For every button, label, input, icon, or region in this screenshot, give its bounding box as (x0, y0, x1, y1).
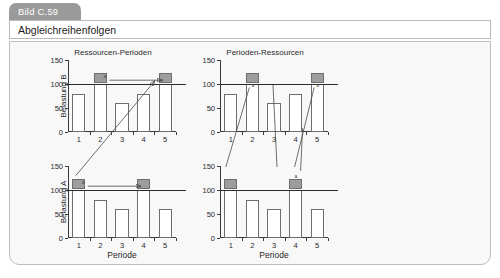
figure-tab: Bild C.59 (9, 3, 81, 20)
x-axis-tick-label: 5 (163, 135, 167, 144)
x-axis-tick-label: 3 (272, 241, 276, 250)
x-axis-tick (90, 238, 91, 241)
x-axis-tick (306, 132, 307, 135)
y-axis-tick (217, 60, 220, 61)
bar (289, 94, 302, 132)
bar (159, 209, 172, 238)
overload-segment (311, 73, 324, 83)
x-axis-tick-label: 4 (294, 241, 298, 250)
capacity-line (220, 190, 338, 191)
x-axis-tick (176, 238, 177, 241)
y-axis-tick (217, 108, 220, 109)
y-axis-tick-label: 150 (202, 56, 215, 65)
x-axis-tick (111, 238, 112, 241)
figure-tab-label: Bild C.59 (18, 6, 58, 17)
y-axis-tick-label: 50 (207, 104, 215, 113)
bar (115, 103, 128, 132)
x-axis-tick-label: 4 (142, 135, 146, 144)
y-axis-tick-label: 0 (59, 128, 63, 137)
x-axis-tick (285, 238, 286, 241)
y-axis-tick-label: 150 (50, 56, 63, 65)
x-axis-tick-label: 2 (250, 135, 254, 144)
x-axis-tick-label: 3 (120, 135, 124, 144)
x-axis-tick (111, 132, 112, 135)
overload-segment (72, 179, 85, 189)
y-axis (68, 60, 69, 132)
overload-segment (246, 73, 259, 83)
bar (246, 84, 259, 132)
bar (115, 209, 128, 238)
y-axis-tick (217, 166, 220, 167)
y-axis-tick-label: 150 (202, 162, 215, 171)
y-axis-tick (65, 60, 68, 61)
y-axis-tick-label: 0 (59, 234, 63, 243)
y-axis-tick (217, 214, 220, 215)
bar (224, 190, 237, 238)
x-axis-tick-label: 3 (272, 135, 276, 144)
overload-segment (159, 73, 172, 83)
y-axis-tick (65, 132, 68, 133)
bar (137, 94, 150, 132)
figure-title: Abgleichreihenfolgen (18, 24, 116, 36)
y-axis-tick-label: 100 (50, 80, 63, 89)
x-axis-tick (328, 238, 329, 241)
x-axis-tick (133, 238, 134, 241)
x-axis-tick (263, 238, 264, 241)
bar (289, 190, 302, 238)
x-axis-tick (263, 132, 264, 135)
x-axis-tick-label: 3 (120, 241, 124, 250)
capacity-line (68, 190, 186, 191)
plot-area: 05010015012345 (220, 60, 328, 132)
bar (72, 94, 85, 132)
y-axis-tick-label: 100 (202, 80, 215, 89)
bar (224, 94, 237, 132)
x-axis-tick (176, 132, 177, 135)
y-axis-tick-label: 0 (211, 128, 215, 137)
x-axis-tick-label: 1 (77, 135, 81, 144)
y-axis-tick (65, 166, 68, 167)
y-axis-tick (217, 238, 220, 239)
plot-area: Belastung B 05010015012345 (68, 60, 176, 132)
y-axis (220, 166, 221, 238)
x-axis-tick (154, 238, 155, 241)
y-axis-tick (65, 108, 68, 109)
x-axis-tick-label: 1 (229, 241, 233, 250)
x-axis-title: Periode (220, 250, 328, 260)
x-axis-tick-label: 2 (250, 241, 254, 250)
figure-panel: Ressourcen-Perioden Belastung B 05010015… (9, 41, 491, 265)
bar (137, 190, 150, 238)
x-axis-tick (242, 238, 243, 241)
x-axis-tick-label: 4 (294, 135, 298, 144)
x-axis-tick (90, 132, 91, 135)
x-axis-tick-label: 5 (315, 135, 319, 144)
x-axis-tick-label: 4 (142, 241, 146, 250)
figure-root: Bild C.59 Abgleichreihenfolgen Ressource… (0, 0, 500, 278)
y-axis (220, 60, 221, 132)
bar (72, 190, 85, 238)
y-axis (68, 166, 69, 238)
x-axis-tick-label: 1 (229, 135, 233, 144)
figure-title-bar: Abgleichreihenfolgen (9, 20, 491, 39)
x-axis-tick (154, 132, 155, 135)
bar (311, 84, 324, 132)
overload-segment (94, 73, 107, 83)
x-axis-tick-label: 5 (163, 241, 167, 250)
bar (94, 84, 107, 132)
x-axis-tick (285, 132, 286, 135)
x-axis-tick-label: 2 (98, 241, 102, 250)
capacity-line (220, 84, 338, 85)
bar (246, 200, 259, 238)
chart-bottom-left: Belastung A Periode 05010015012345 (38, 154, 188, 254)
x-axis-tick (328, 132, 329, 135)
capacity-line (68, 84, 186, 85)
x-axis-tick-label: 1 (77, 241, 81, 250)
y-axis-tick (217, 132, 220, 133)
y-axis-tick-label: 50 (55, 210, 63, 219)
chart-top-left: Ressourcen-Perioden Belastung B 05010015… (38, 48, 188, 148)
plot-area: Periode 05010015012345 (220, 166, 328, 238)
bar (159, 84, 172, 132)
plot-area: Belastung A Periode 05010015012345 (68, 166, 176, 238)
x-axis-tick-label: 5 (315, 241, 319, 250)
bar (94, 200, 107, 238)
y-axis-tick-label: 100 (202, 186, 215, 195)
